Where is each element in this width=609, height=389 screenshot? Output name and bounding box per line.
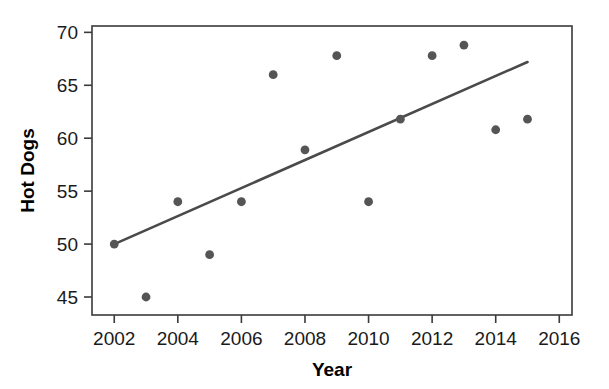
x-axis-tick-label: 2014	[475, 328, 518, 349]
x-axis-tick-label: 2012	[411, 328, 453, 349]
data-point-marker	[173, 197, 182, 206]
plot-frame	[92, 26, 572, 315]
regression-trend-line	[114, 62, 527, 244]
data-point-marker	[491, 125, 500, 134]
data-point-marker	[301, 145, 310, 154]
x-axis-tick-label: 2008	[284, 328, 326, 349]
x-axis-title: Year	[312, 359, 353, 380]
y-axis-tick-label: 50	[57, 234, 78, 255]
data-point-marker	[428, 51, 437, 60]
x-axis-tick-label: 2006	[220, 328, 262, 349]
scatter-chart-figure: 4550556065702002200420062008201020122014…	[0, 0, 609, 389]
data-point-marker	[460, 41, 469, 50]
data-point-marker	[142, 293, 151, 302]
x-axis-tick-label: 2010	[347, 328, 389, 349]
data-point-marker	[110, 240, 119, 249]
y-axis-tick-label: 70	[57, 22, 78, 43]
x-axis-tick-label: 2004	[157, 328, 200, 349]
y-axis-tick-label: 55	[57, 181, 78, 202]
x-axis-tick-label: 2016	[538, 328, 580, 349]
y-axis-tick-label: 65	[57, 75, 78, 96]
y-axis-title: Hot Dogs	[17, 128, 38, 212]
x-axis-tick-label: 2002	[93, 328, 135, 349]
plot-canvas: 4550556065702002200420062008201020122014…	[0, 0, 609, 389]
data-point-marker	[523, 115, 532, 124]
data-point-marker	[332, 51, 341, 60]
data-point-marker	[269, 70, 278, 79]
y-axis-tick-label: 45	[57, 287, 78, 308]
data-point-marker	[237, 197, 246, 206]
y-axis-tick-label: 60	[57, 128, 78, 149]
data-point-marker	[364, 197, 373, 206]
data-point-marker	[396, 115, 405, 124]
data-point-marker	[205, 250, 214, 259]
